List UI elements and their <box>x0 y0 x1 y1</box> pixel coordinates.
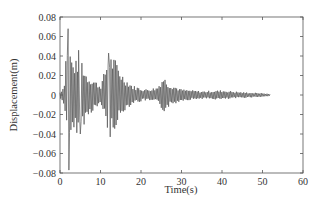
y-tick-label: −0.02 <box>33 109 56 120</box>
y-axis-label: Displacement(m) <box>8 58 20 131</box>
x-tick-label: 60 <box>298 176 308 187</box>
plot-area <box>60 17 303 173</box>
x-tick-label: 0 <box>58 176 63 187</box>
y-tick-label: 0.08 <box>39 12 57 23</box>
y-tick-label: −0.08 <box>33 168 56 179</box>
y-tick-label: 0.02 <box>39 70 57 81</box>
y-tick-label: 0 <box>51 90 56 101</box>
x-axis-label: Time(s) <box>165 184 198 196</box>
y-tick-label: 0.04 <box>39 51 57 62</box>
x-tick-label: 10 <box>96 176 106 187</box>
y-axis-tick-labels: 0.080.060.040.020−0.02−0.04−0.06−0.08 <box>33 12 56 179</box>
y-tick-label: 0.06 <box>39 31 57 42</box>
y-tick-label: −0.04 <box>33 129 56 140</box>
y-tick-label: −0.06 <box>33 148 56 159</box>
displacement-chart: 0.080.060.040.020−0.02−0.04−0.06−0.08 01… <box>0 0 322 205</box>
x-tick-label: 40 <box>217 176 227 187</box>
x-tick-label: 50 <box>258 176 268 187</box>
x-tick-label: 20 <box>136 176 146 187</box>
